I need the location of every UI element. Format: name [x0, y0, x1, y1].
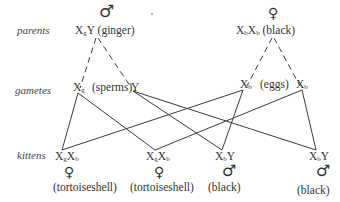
kitten-1-phenotype: (tortoiseshell): [53, 181, 117, 193]
father-phenotype: (ginger): [98, 24, 135, 36]
row-label-parents: parents: [17, 24, 50, 36]
female-symbol-icon: ♀: [64, 165, 74, 179]
egg-1: Xb: [240, 78, 252, 91]
egg1-to-kitten1: [62, 90, 243, 150]
sperm-xg: Xg: [73, 81, 85, 94]
y-to-kitten4: [133, 91, 316, 150]
kitten-2-genotype: XgXb: [146, 150, 170, 163]
xg-to-kitten2: [78, 93, 155, 150]
male-symbol-icon: ♂: [99, 3, 114, 20]
egg1-to-kitten3: [222, 90, 243, 150]
mother-phenotype: (black): [263, 24, 296, 36]
male-symbol-icon: ♂: [222, 163, 236, 179]
male-symbol-icon: ♂: [316, 163, 330, 179]
egg-2: Xb: [296, 78, 308, 91]
father-to-y-dashed: [98, 38, 130, 86]
xg-to-kitten1: [62, 93, 78, 150]
kitten-1-genotype: XgXb: [55, 150, 79, 163]
stray-dot: [151, 13, 153, 15]
sperm-label: (sperms): [92, 81, 132, 93]
sperm-y: Y: [131, 81, 139, 93]
father-genotype: XgY (ginger): [75, 24, 135, 37]
egg2-to-kitten4: [302, 90, 316, 150]
mother-genotype: XbXb (black): [236, 24, 295, 37]
female-symbol-icon: ♀: [154, 165, 164, 179]
kitten-2-phenotype: (tortoiseshell): [130, 181, 194, 193]
kitten-3-phenotype: (black): [208, 181, 241, 193]
row-label-kittens: kittens: [17, 149, 46, 161]
egg-label: (eggs): [260, 78, 289, 90]
female-symbol-icon: ♀: [268, 6, 278, 20]
row-label-gametes: gametes: [15, 84, 51, 96]
kitten-4-phenotype: (black): [297, 184, 330, 196]
